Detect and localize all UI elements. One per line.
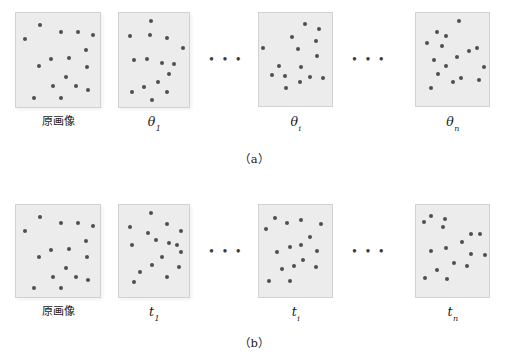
data-point [84, 239, 88, 243]
panel-label-b-t-1: t1 [118, 305, 190, 324]
data-point [315, 249, 319, 253]
row-caption-row-b: （b） [0, 334, 509, 350]
data-point [422, 220, 426, 224]
scatter-panel-b-t-n [415, 204, 490, 298]
data-point [84, 48, 88, 52]
data-point [301, 258, 305, 262]
scatter-panel-b-t-i [258, 204, 333, 298]
data-point [64, 266, 68, 270]
scatter-panel-b-original [15, 204, 101, 298]
data-point [85, 255, 89, 259]
panel-label-a-theta-i: θi [258, 115, 333, 134]
panel-label-a-original: 原画像 [15, 115, 101, 129]
panel-label-subscript: n [454, 124, 459, 133]
scatter-panel-a-theta-1 [118, 12, 190, 108]
data-point [477, 78, 481, 82]
data-point [315, 54, 319, 58]
panel-label-symbol: t [292, 304, 297, 319]
panel-label-text: 原画像 [42, 305, 75, 318]
data-point [59, 96, 63, 100]
data-point [142, 85, 146, 89]
ellipsis-b-ellipsis-2: • • • [352, 244, 386, 260]
data-point [264, 227, 268, 231]
data-point [308, 75, 312, 79]
data-point [130, 243, 134, 247]
data-point [167, 241, 171, 245]
scatter-panel-a-theta-i [258, 12, 333, 107]
data-point [451, 80, 455, 84]
data-point [267, 279, 271, 283]
panel-label-symbol: t [447, 304, 452, 319]
data-point [149, 211, 153, 215]
ellipsis-b-ellipsis-1: • • • [209, 244, 243, 260]
ellipsis-a-ellipsis-1: • • • [209, 52, 243, 68]
data-point [443, 217, 447, 221]
data-point [49, 248, 53, 252]
data-point [32, 286, 36, 290]
data-point [51, 84, 55, 88]
data-point [292, 264, 296, 268]
data-point [285, 221, 289, 225]
data-point [425, 41, 429, 45]
data-point [67, 247, 71, 251]
data-point [429, 249, 433, 253]
data-point [444, 64, 448, 68]
data-point [177, 265, 181, 269]
data-point [85, 65, 89, 69]
data-point [59, 30, 63, 34]
data-point [423, 276, 427, 280]
data-point [284, 86, 288, 90]
panel-label-a-theta-1: θ1 [118, 115, 190, 134]
data-point [429, 86, 433, 90]
data-point [469, 232, 473, 236]
data-point [459, 76, 463, 80]
data-point [314, 265, 318, 269]
data-point [460, 240, 464, 244]
data-point [165, 275, 169, 279]
data-point [64, 75, 68, 79]
data-point [435, 30, 439, 34]
data-point [145, 57, 149, 61]
data-point [299, 65, 303, 69]
data-point [179, 229, 183, 233]
data-point [91, 224, 95, 228]
panel-label-b-t-i: ti [258, 305, 333, 324]
data-point [132, 280, 136, 284]
data-point [273, 216, 277, 220]
data-point [435, 268, 439, 272]
data-point [154, 238, 158, 242]
data-point [275, 250, 279, 254]
data-point [23, 229, 27, 233]
data-point [130, 90, 134, 94]
scatter-panel-b-t-1 [118, 204, 190, 298]
data-point [296, 47, 300, 51]
panel-label-subscript: n [453, 314, 458, 323]
scatter-panel-a-original [15, 12, 101, 108]
data-point [475, 46, 479, 50]
data-point [440, 44, 444, 48]
data-point [23, 37, 27, 41]
data-point [150, 263, 154, 267]
data-point [299, 218, 303, 222]
panel-label-symbol: θ [148, 114, 156, 129]
data-point [86, 88, 90, 92]
data-point [280, 267, 284, 271]
data-point [76, 30, 80, 34]
panel-label-symbol: θ [446, 114, 454, 129]
data-point [444, 246, 448, 250]
data-point [432, 58, 436, 62]
data-point [303, 22, 307, 26]
data-point [298, 80, 302, 84]
row-caption-row-a: （a） [0, 150, 509, 166]
data-point [74, 275, 78, 279]
data-point [478, 232, 482, 236]
data-point [74, 84, 78, 88]
panel-label-subscript: 1 [154, 314, 159, 323]
data-point [179, 250, 183, 254]
data-point [128, 34, 132, 38]
data-point [467, 49, 471, 53]
data-point [317, 27, 321, 31]
data-point [167, 72, 171, 76]
panel-label-b-t-n: tn [415, 305, 490, 324]
data-point [76, 221, 80, 225]
